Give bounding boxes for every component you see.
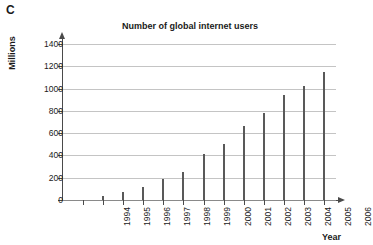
x-tick-mark — [284, 200, 285, 205]
x-tick-mark — [244, 200, 245, 205]
y-axis-ticks: 0200400600800100012001400 — [0, 0, 63, 245]
x-tick-mark — [183, 200, 184, 205]
x-axis-arrow-icon — [338, 197, 345, 203]
x-tick-mark — [304, 200, 305, 205]
gridline — [63, 66, 336, 67]
y-tick-label: 0 — [21, 196, 63, 205]
bar-1999 — [182, 172, 184, 200]
x-tick-mark — [103, 200, 104, 205]
gridline — [63, 111, 336, 112]
x-tick-mark — [324, 200, 325, 205]
chart-title: Number of global internet users — [50, 22, 330, 31]
x-tick-mark — [143, 200, 144, 205]
bar-2002 — [243, 126, 245, 200]
plot-area — [63, 44, 336, 200]
x-tick-label-2005: 2005 — [344, 207, 353, 243]
x-tick-label-1994: 1994 — [123, 207, 132, 243]
bar-2005 — [303, 86, 305, 200]
x-tick-label-2003: 2003 — [304, 207, 313, 243]
gridline — [63, 89, 336, 90]
y-tick-label: 200 — [21, 174, 63, 183]
x-tick-mark — [204, 200, 205, 205]
x-tick-mark — [163, 200, 164, 205]
x-tick-label-1996: 1996 — [163, 207, 172, 243]
x-tick-label-2000: 2000 — [244, 207, 253, 243]
y-tick-label: 400 — [21, 151, 63, 160]
x-tick-label-2001: 2001 — [264, 207, 273, 243]
x-tick-label-1995: 1995 — [143, 207, 152, 243]
gridline — [63, 178, 336, 179]
x-tick-label-1999: 1999 — [223, 207, 232, 243]
y-tick-label: 1000 — [21, 85, 63, 94]
gridline — [63, 133, 336, 134]
y-tick-label: 600 — [21, 129, 63, 138]
bar-1996 — [122, 192, 124, 200]
bar-2001 — [223, 144, 225, 200]
bar-2000 — [203, 154, 205, 200]
x-tick-label-1997: 1997 — [183, 207, 192, 243]
y-tick-label: 1200 — [21, 62, 63, 71]
x-tick-label-1998: 1998 — [203, 207, 212, 243]
x-tick-mark — [224, 200, 225, 205]
gridline — [63, 155, 336, 156]
bar-2003 — [263, 113, 265, 200]
x-tick-mark — [264, 200, 265, 205]
y-tick-label: 1400 — [21, 40, 63, 49]
x-tick-label-2002: 2002 — [284, 207, 293, 243]
bar-1997 — [142, 187, 144, 200]
gridline — [63, 44, 336, 45]
bar-2006 — [323, 72, 325, 200]
y-tick-label: 800 — [21, 107, 63, 116]
x-tick-mark — [123, 200, 124, 205]
x-axis-title: Year — [322, 233, 341, 242]
x-tick-label-2006: 2006 — [364, 207, 373, 243]
bar-2004 — [283, 95, 285, 200]
x-tick-mark — [83, 200, 84, 205]
bar-1998 — [162, 179, 164, 200]
